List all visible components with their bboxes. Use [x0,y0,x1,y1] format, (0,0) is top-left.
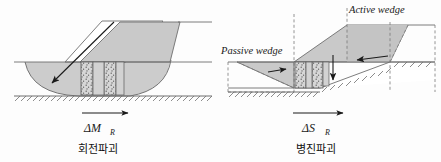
left-diagram-group: ΔM R 회전파괴 [14,21,212,156]
passive-wedge-shape [237,62,294,88]
passive-wedge-label: Passive wedge [220,45,283,56]
column-gap [323,62,329,86]
stone-column [312,62,323,88]
delta-mr-subscript: R [109,128,115,137]
column-gap [116,62,124,95]
delta-sr-subscript: R [324,128,330,137]
column-gap [306,62,312,88]
stone-column [104,62,116,95]
column-gap [93,62,104,95]
stone-column-group [81,62,124,95]
stone-column [81,62,93,95]
active-wedge-inner [347,25,408,62]
right-stone-column-group [295,62,329,88]
figure-canvas: ΔM R 회전파괴 [0,0,441,162]
geotechnical-failure-figure: ΔM R 회전파괴 [0,0,441,162]
right-caption-korean: 병진파괴 [296,143,336,156]
active-wedge-label: Active wedge [348,4,405,15]
bedrock-hatching-left [14,96,212,101]
delta-mr-symbol: ΔM [83,121,102,135]
right-foundation-block [320,62,435,88]
left-caption-korean: 회전파괴 [78,143,118,156]
stone-column [295,62,306,88]
right-diagram-group: Active wedge Passive wedge ΔS R 병진파괴 [220,4,435,156]
delta-sr-symbol: ΔS [301,121,315,135]
